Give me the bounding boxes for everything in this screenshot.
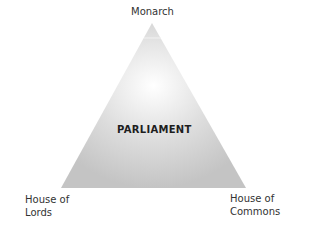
bottom-left-line-2: Lords: [25, 206, 69, 219]
bottom-right-line-2: Commons: [230, 205, 280, 218]
center-label: PARLIAMENT: [117, 124, 192, 135]
bottom-right-line-1: House of: [230, 192, 280, 205]
vertex-bottom-right-label: House of Commons: [230, 192, 280, 218]
bottom-left-line-1: House of: [25, 193, 69, 206]
vertex-bottom-left-label: House of Lords: [25, 193, 69, 219]
vertex-top-label: Monarch: [131, 5, 174, 18]
